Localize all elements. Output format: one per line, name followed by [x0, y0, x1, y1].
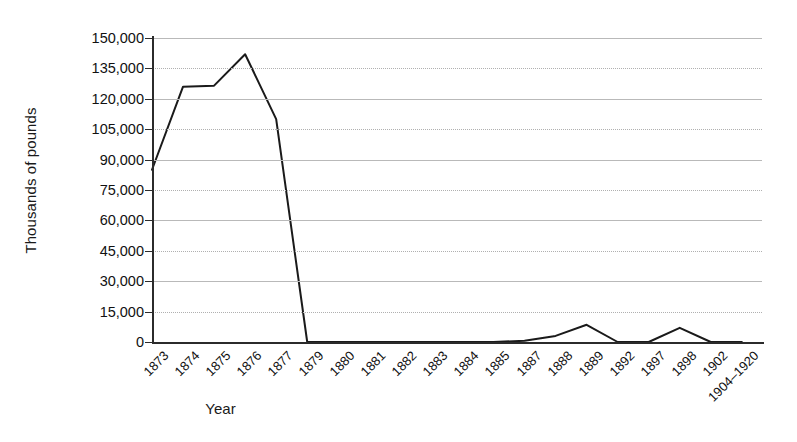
- y-axis-tick-mark: [145, 251, 152, 252]
- y-axis-title-text: Thousands of pounds: [22, 107, 39, 253]
- x-axis-tick-label: 1877: [265, 348, 296, 379]
- y-axis-tick-mark: [145, 129, 152, 130]
- x-axis-tick-label: 1873: [141, 348, 172, 379]
- x-axis-tick-label: 1889: [575, 348, 606, 379]
- x-axis-tick-label: 1879: [296, 348, 327, 379]
- x-axis-title: Year: [0, 400, 797, 417]
- gridline: [152, 99, 762, 100]
- y-axis-tick-mark: [145, 220, 152, 221]
- y-axis-tick-mark: [145, 38, 152, 39]
- x-axis-tick-label: 1892: [606, 348, 637, 379]
- x-axis-tick-label: 1888: [544, 348, 575, 379]
- y-axis-tick-mark: [145, 342, 152, 343]
- x-axis-tick-label: 1875: [203, 348, 234, 379]
- x-axis-tick-label: 1884: [451, 348, 482, 379]
- y-axis-tick-mark: [145, 68, 152, 69]
- gridline: [152, 129, 762, 130]
- x-axis-tick-labels: 1873187418751876187718791880188118821883…: [152, 344, 764, 404]
- x-axis-tick-label: 1887: [513, 348, 544, 379]
- x-axis-tick-label: 1880: [327, 348, 358, 379]
- y-axis-tick-mark: [145, 99, 152, 100]
- x-axis-tick-label: 1882: [389, 348, 420, 379]
- gridline: [152, 220, 762, 221]
- gridline: [152, 312, 762, 313]
- y-axis-title: Thousands of pounds: [10, 0, 50, 360]
- plot-area: [152, 38, 762, 342]
- x-axis-tick-label: 1874: [172, 348, 203, 379]
- line-chart: Thousands of pounds 015,00030,00045,0006…: [0, 0, 797, 442]
- gridline: [152, 251, 762, 252]
- data-line: [152, 54, 742, 342]
- y-axis-tick-label: 60,000: [100, 212, 144, 228]
- y-axis-tick-label: 45,000: [100, 243, 144, 259]
- y-axis-tick-label: 75,000: [100, 182, 144, 198]
- x-axis-tick-label: 1898: [668, 348, 699, 379]
- gridline: [152, 160, 762, 161]
- x-axis-title-text: Year: [205, 400, 235, 417]
- y-axis-tick-label: 15,000: [100, 304, 144, 320]
- x-axis-tick-label: 1883: [420, 348, 451, 379]
- x-axis-tick-label: 1885: [482, 348, 513, 379]
- y-axis-tick-label: 90,000: [100, 152, 144, 168]
- x-axis-tick-label: 1881: [358, 348, 389, 379]
- y-axis-tick-label: 105,000: [92, 121, 144, 137]
- gridline: [152, 38, 762, 39]
- y-axis-tick-label: 150,000: [92, 30, 144, 46]
- gridline: [152, 190, 762, 191]
- y-axis-tick-labels: 015,00030,00045,00060,00075,00090,000105…: [56, 38, 144, 342]
- gridline: [152, 68, 762, 69]
- y-axis-tick-mark: [145, 160, 152, 161]
- y-axis-tick-mark: [145, 190, 152, 191]
- x-axis-tick-label: 1876: [234, 348, 265, 379]
- y-axis-line: [152, 36, 154, 344]
- y-axis-tick-mark: [145, 312, 152, 313]
- y-axis-tick-label: 135,000: [92, 60, 144, 76]
- x-axis-tick-label: 1897: [637, 348, 668, 379]
- gridline: [152, 281, 762, 282]
- y-axis-tick-mark: [145, 281, 152, 282]
- y-axis-tick-label: 0: [136, 334, 144, 350]
- y-axis-tick-label: 120,000: [92, 91, 144, 107]
- y-axis-tick-label: 30,000: [100, 273, 144, 289]
